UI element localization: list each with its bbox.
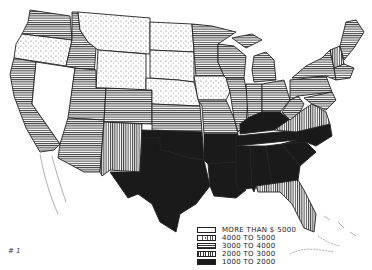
state-new-mexico [100, 122, 142, 176]
state-maine [340, 20, 364, 60]
legend-item: 4000 TO 5000 [197, 234, 327, 242]
coastline-bahamas [324, 216, 356, 236]
state-nebraska [146, 78, 200, 106]
legend-label: 4000 TO 5000 [222, 234, 275, 242]
legend-label: 2000 TO 3000 [222, 250, 275, 258]
legend-item: 1000 TO 2000 [197, 258, 327, 266]
state-new-york [292, 50, 336, 80]
state-new-england-south [334, 64, 354, 80]
legend-swatch-stipple [197, 235, 216, 241]
legend-swatch-horizontal-hatch [197, 243, 216, 249]
state-mississippi [236, 146, 252, 190]
figure-label: # 1 [8, 247, 21, 255]
legend-swatch-solid [197, 259, 216, 265]
state-arkansas [204, 134, 238, 164]
legend-label: 1000 TO 2000 [222, 258, 275, 266]
state-south-dakota [150, 50, 194, 82]
state-north-dakota [150, 22, 194, 52]
state-colorado [104, 88, 152, 124]
legend-item: 3000 TO 4000 [197, 242, 327, 250]
legend-label: 3000 TO 4000 [222, 242, 275, 250]
state-wisconsin [218, 44, 246, 78]
state-kansas [152, 104, 202, 132]
legend-label: MORE THAN $ 5000 [222, 226, 296, 234]
legend-swatch-vertical-hatch [197, 251, 216, 257]
state-iowa [194, 76, 230, 100]
legend-swatch-blank [197, 227, 216, 233]
coastline-baja [40, 154, 66, 214]
state-wyoming [96, 50, 146, 90]
state-michigan-upper [232, 34, 262, 48]
map-legend: MORE THAN $ 5000 4000 TO 5000 3000 TO 40… [197, 226, 327, 266]
legend-item: MORE THAN $ 5000 [197, 226, 327, 234]
legend-item: 2000 TO 3000 [197, 250, 327, 258]
state-michigan [252, 52, 276, 82]
state-florida [256, 180, 316, 232]
